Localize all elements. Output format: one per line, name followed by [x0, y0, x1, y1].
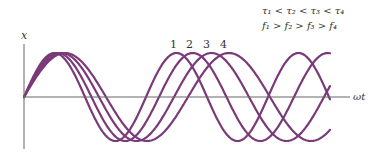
- x-axis-label: ωt: [353, 91, 366, 102]
- tau-relation: τ₁ < τ₂ < τ₃ < τ₄: [262, 5, 344, 16]
- y-axis-label: x: [21, 29, 28, 42]
- curve-label-4: 4: [220, 38, 227, 51]
- curve-label-2: 2: [186, 38, 193, 51]
- curve-label-1: 1: [170, 38, 177, 51]
- oscillation-diagram: x ωt τ₁ < τ₂ < τ₃ < τ₄ f₁ > f₂ > f₃ > f₄…: [0, 0, 381, 155]
- curve-label-3: 3: [203, 38, 210, 51]
- frequency-relation: f₁ > f₂ > f₃ > f₄: [261, 20, 337, 31]
